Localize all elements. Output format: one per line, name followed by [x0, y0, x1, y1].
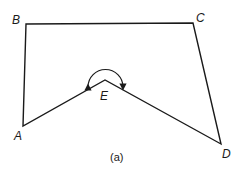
vertex-label-b: B	[12, 13, 20, 27]
reflex-angle-arc	[88, 70, 123, 88]
polygon-diagram: B C E A D (a)	[0, 0, 238, 175]
pentagon-ABCDE	[23, 23, 221, 144]
vertex-label-d: D	[222, 147, 231, 161]
figure-caption: (a)	[110, 151, 123, 163]
vertex-label-e: E	[100, 89, 109, 103]
vertex-label-a: A	[13, 129, 22, 143]
vertex-label-c: C	[196, 11, 205, 25]
